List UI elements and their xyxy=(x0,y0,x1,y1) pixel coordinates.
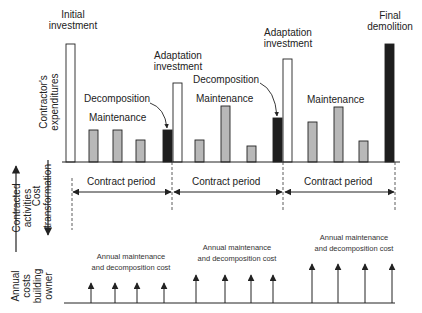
maintenance-bar xyxy=(89,130,98,162)
decomposition-bar xyxy=(385,44,394,162)
decomposition-bar xyxy=(273,118,282,162)
lifecycle-cost-diagram xyxy=(0,0,422,313)
maintenance-bar xyxy=(113,130,122,162)
label-decomposition-1: Decomposition xyxy=(84,93,150,104)
label-adaptation-investment-1: Adaptation investment xyxy=(150,50,206,72)
maintenance-bar xyxy=(247,146,256,162)
decomposition-callout-arrow-1 xyxy=(150,103,167,128)
maintenance-bar xyxy=(195,140,204,162)
label-adaptation-investment-2: Adaptation investment xyxy=(260,27,316,49)
label-annual-cost-3: Annual maintenance and decomposition cos… xyxy=(309,232,399,254)
label-final-demolition: Final demolition xyxy=(362,10,418,32)
label-annual-cost-1: Annual maintenance and decomposition cos… xyxy=(86,251,176,273)
investment-bar xyxy=(173,83,182,162)
label-maintenance-1: Maintenance xyxy=(89,112,146,123)
label-maintenance-3: Maintenance xyxy=(307,94,364,105)
label-contract-period-2: Contract period xyxy=(192,176,260,187)
label-annual-cost-2: Annual maintenance and decomposition cos… xyxy=(192,242,282,264)
decomposition-bar xyxy=(163,130,172,162)
label-contract-period-3: Contract period xyxy=(304,176,372,187)
maintenance-bar xyxy=(221,106,230,162)
label-maintenance-2: Maintenance xyxy=(196,93,253,104)
maintenance-bar xyxy=(308,122,317,162)
axis-label-annual-costs-owner: Annual costs building owner xyxy=(10,261,56,311)
maintenance-bar xyxy=(359,141,368,162)
axis-label-contractor-expenditures: Contractor's expenditures xyxy=(38,67,62,137)
maintenance-bar xyxy=(136,140,145,162)
label-initial-investment: Initial investment xyxy=(48,9,98,31)
decomposition-callout-arrow-2 xyxy=(260,83,277,116)
investment-bar xyxy=(66,44,75,162)
label-decomposition-2: Decomposition xyxy=(193,74,259,85)
label-contract-period-1: Contract period xyxy=(87,176,155,187)
maintenance-bar xyxy=(334,107,343,162)
investment-bar xyxy=(283,59,292,162)
axis-label-cost-transformation: Cost transformation xyxy=(31,161,55,231)
